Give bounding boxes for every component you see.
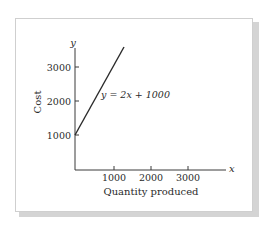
y-axis-var-label: y bbox=[69, 37, 76, 48]
y-tick-label-1000: 1000 bbox=[47, 130, 71, 141]
y-tick-label-3000: 3000 bbox=[47, 62, 71, 73]
equation-label: y = 2x + 1000 bbox=[100, 89, 170, 100]
x-axis-var-label: x bbox=[229, 163, 235, 174]
y-axis-title: Cost bbox=[32, 91, 43, 114]
x-tick-label-3000: 3000 bbox=[176, 172, 200, 183]
x-tick-label-2000: 2000 bbox=[139, 172, 163, 183]
x-axis-title: Quantity produced bbox=[103, 186, 199, 197]
x-tick-label-1000: 1000 bbox=[102, 172, 126, 183]
chart: y x 3000 2000 1000 1000 2000 3000 Quanti… bbox=[0, 0, 268, 227]
y-tick-label-2000: 2000 bbox=[47, 96, 71, 107]
